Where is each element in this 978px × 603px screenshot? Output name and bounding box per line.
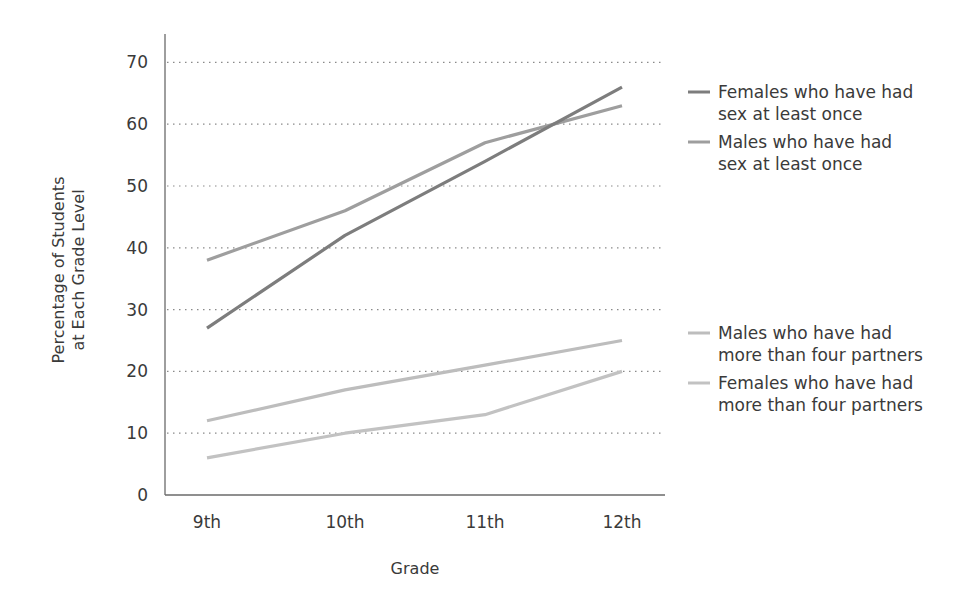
x-tick-label: 10th	[325, 512, 364, 532]
y-axis-ticks: 010203040506070	[126, 52, 148, 505]
y-axis-title-line-2: at Each Grade Level	[69, 189, 88, 350]
legend-label: more than four partners	[718, 345, 923, 365]
y-axis-title: Percentage of Students at Each Grade Lev…	[49, 177, 88, 364]
y-tick-label: 50	[126, 176, 148, 196]
line-chart: 010203040506070 9th10th11th12th Grade Pe…	[0, 0, 978, 603]
legend-item-males-sex: Males who have had sex at least once	[688, 132, 892, 174]
y-tick-label: 10	[126, 423, 148, 443]
series-line	[207, 371, 622, 458]
y-tick-label: 70	[126, 52, 148, 72]
x-axis-ticks: 9th10th11th12th	[193, 512, 642, 532]
x-tick-label: 12th	[602, 512, 641, 532]
y-tick-label: 0	[137, 485, 148, 505]
legend-label: Females who have had	[718, 82, 913, 102]
y-axis-title-line-1: Percentage of Students	[49, 177, 68, 364]
legend: Females who have had sex at least once M…	[688, 82, 923, 415]
legend-label: sex at least once	[718, 104, 862, 124]
y-tick-label: 40	[126, 238, 148, 258]
legend-label: Males who have had	[718, 323, 892, 343]
y-tick-label: 20	[126, 361, 148, 381]
series-lines	[207, 87, 622, 458]
series-line	[207, 341, 622, 421]
y-tick-label: 60	[126, 114, 148, 134]
legend-item-females-partners: Females who have had more than four part…	[688, 373, 923, 415]
legend-item-males-partners: Males who have had more than four partne…	[688, 323, 923, 365]
legend-label: more than four partners	[718, 395, 923, 415]
legend-label: Females who have had	[718, 373, 913, 393]
legend-label: sex at least once	[718, 154, 862, 174]
y-tick-label: 30	[126, 300, 148, 320]
x-axis-title: Grade	[391, 559, 440, 578]
legend-item-females-sex: Females who have had sex at least once	[688, 82, 913, 124]
x-tick-label: 11th	[465, 512, 504, 532]
series-line	[207, 106, 622, 261]
legend-label: Males who have had	[718, 132, 892, 152]
x-tick-label: 9th	[193, 512, 221, 532]
